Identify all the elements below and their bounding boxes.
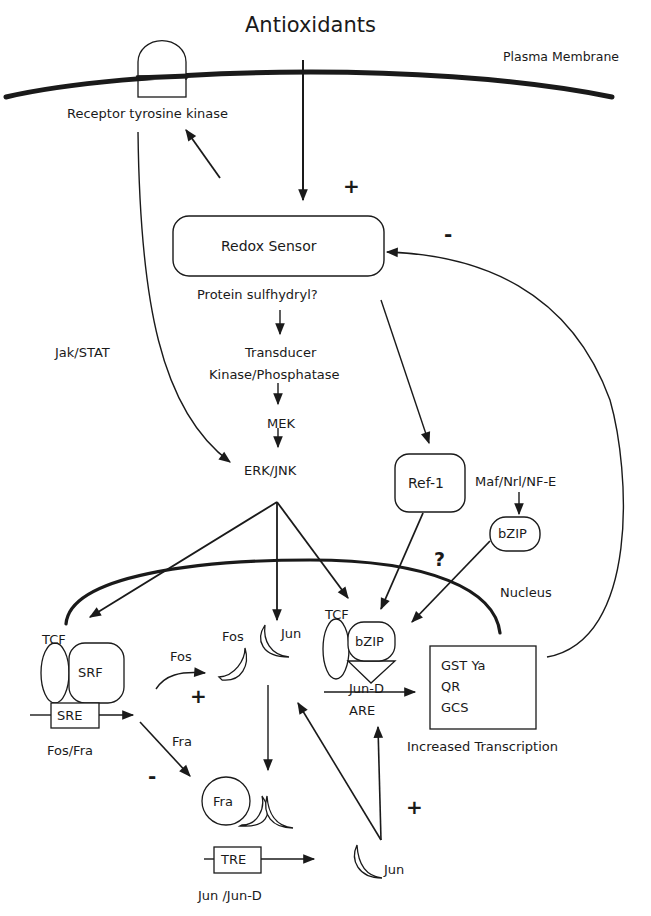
gene-gcs: GCS — [441, 701, 468, 714]
mek-label: MEK — [267, 417, 295, 430]
are-label: ARE — [349, 704, 375, 717]
sre-label: SRE — [57, 709, 83, 722]
redox-to-ref1-arrow — [381, 300, 429, 443]
redox-sensor-label: Redox Sensor — [221, 239, 316, 253]
jun-protein-label: Jun — [281, 627, 301, 640]
kinase-phosphatase-label: Kinase/Phosphatase — [209, 368, 340, 381]
nuclear-envelope — [66, 560, 500, 633]
ref1-label: Ref-1 — [408, 476, 444, 490]
jun-d-triangle — [348, 661, 395, 683]
redox-to-receptor-arrow — [186, 130, 220, 178]
plasma-membrane — [6, 72, 612, 97]
redox-signaling-diagram: Antioxidants Plasma Membrane Receptor ty… — [0, 0, 651, 916]
tcf-left-label: TCF — [42, 633, 66, 646]
bzip-nuclear-label: bZIP — [355, 635, 384, 648]
fos-protein-label: Fos — [222, 630, 244, 643]
tcf-right-shape — [323, 619, 349, 679]
unknown-link-question: ? — [434, 550, 445, 569]
feedback-minus-sign: - — [444, 224, 452, 244]
nucleus-label: Nucleus — [500, 586, 552, 599]
maf-nrl-nfe-label: Maf/Nrl/NF-E — [475, 475, 556, 488]
receptor-label: Receptor tyrosine kinase — [67, 107, 228, 120]
figure-title: Antioxidants — [245, 15, 376, 36]
fra-minus-sign: - — [148, 766, 156, 786]
fos-fra-label: Fos/Fra — [47, 744, 93, 757]
gene-gst-ya: GST Ya — [441, 659, 486, 672]
increased-transcription-label: Increased Transcription — [407, 740, 558, 753]
diagram-connectors — [0, 0, 651, 916]
fos-plus-sign: + — [190, 686, 207, 706]
antioxidant-plus-sign: + — [343, 176, 360, 196]
tcf-left-shape — [41, 643, 69, 703]
transducer-label: Transducer — [245, 346, 316, 359]
protein-sulfhydryl-label: Protein sulfhydryl? — [197, 288, 318, 301]
erk-jnk-label: ERK/JNK — [244, 464, 296, 477]
jak-stat-label: Jak/STAT — [55, 346, 110, 359]
tre-label: TRE — [221, 853, 246, 866]
jun-d-label: Jun-D — [349, 682, 384, 695]
receptor-icon — [136, 41, 188, 97]
srf-label: SRF — [78, 666, 103, 679]
fra-arrow-label: Fra — [172, 735, 192, 748]
jun-bottom-crescent — [355, 845, 382, 878]
fra-protein-label: Fra — [213, 795, 233, 808]
fos-arrow-label: Fos — [170, 650, 192, 663]
fos-crescent — [219, 648, 246, 680]
jun-bottom-label: Jun — [384, 863, 404, 876]
tcf-right-label: TCF — [325, 608, 349, 621]
plasma-membrane-label: Plasma Membrane — [503, 51, 619, 64]
jun-jund-label: Jun /Jun-D — [198, 889, 262, 902]
jun-plus-sign: + — [406, 797, 423, 817]
gene-qr: QR — [441, 680, 460, 693]
bzip-cyto-label: bZIP — [498, 527, 527, 540]
